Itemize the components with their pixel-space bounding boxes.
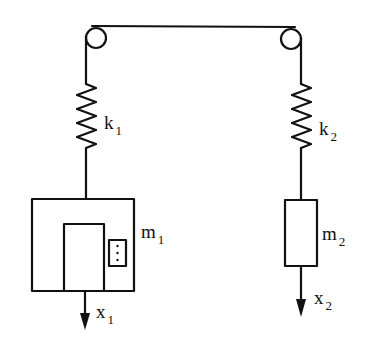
arrow-x1-head — [80, 313, 90, 330]
label-m2: m2 — [322, 223, 345, 249]
label-x1: x1 — [96, 301, 114, 327]
label-k1: k1 — [104, 112, 122, 138]
rope-top — [92, 26, 295, 27]
spring-pulley-diagram: k1 k2 m1 m2 x1 x2 — [0, 0, 367, 347]
mass-m2 — [285, 200, 317, 266]
arrow-x2-head — [296, 299, 306, 317]
panel-dot — [116, 259, 118, 261]
label-m1: m1 — [141, 221, 164, 247]
mass-m1 — [32, 199, 134, 291]
panel-dot — [116, 252, 118, 254]
spring-k1 — [77, 84, 96, 148]
spring-k2 — [292, 84, 311, 148]
label-k2: k2 — [319, 118, 337, 144]
elevator-door — [64, 224, 104, 291]
panel-dot — [116, 245, 118, 247]
pulley-left — [86, 28, 106, 48]
pulley-right — [281, 29, 301, 49]
label-x2: x2 — [314, 287, 332, 313]
